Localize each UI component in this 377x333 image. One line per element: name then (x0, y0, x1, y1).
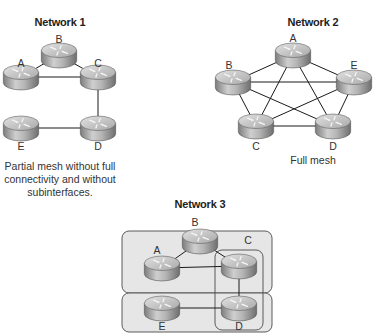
router-icon-network-1-d (80, 116, 115, 141)
node-label: C (244, 234, 252, 246)
network-1-title: Network 1 (35, 16, 86, 28)
node-label: B (191, 216, 198, 228)
caption-line: connectivity and without (4, 173, 115, 186)
node-label: B (55, 33, 62, 45)
router-icon-network-2-d (315, 114, 350, 139)
node-label: B (225, 59, 232, 71)
router-icon-network-3-c (221, 254, 256, 279)
router-icon-network-3-a (144, 256, 179, 281)
router-icon-network-3-e (144, 296, 179, 321)
network-1-caption: Partial mesh without fullconnectivity an… (4, 160, 115, 199)
network-2-caption: Full mesh (290, 154, 336, 167)
node-label: A (153, 244, 160, 256)
caption-line: subinterfaces. (4, 186, 115, 199)
router-icon-network-2-e (336, 70, 371, 95)
router-icon-network-3-d (221, 296, 256, 321)
node-label: A (17, 57, 24, 69)
network-3-title: Network 3 (175, 198, 226, 210)
node-label: C (94, 57, 102, 69)
router-icon-network-1-b (41, 43, 76, 68)
caption-line: Full mesh (290, 154, 336, 167)
node-label: E (350, 59, 357, 71)
node-label: D (329, 140, 337, 152)
node-label: A (289, 32, 296, 44)
router-icon-network-2-c (238, 114, 273, 139)
node-label: E (158, 320, 165, 332)
caption-line: Partial mesh without full (4, 160, 115, 173)
node-label: E (17, 140, 24, 152)
router-icon-network-2-b (215, 70, 250, 95)
router-icon-network-3-b (182, 229, 217, 254)
node-label: D (94, 140, 102, 152)
router-icon-network-2-a (275, 43, 310, 68)
node-label: C (252, 140, 260, 152)
node-label: D (235, 320, 243, 332)
network-2-title: Network 2 (288, 16, 339, 28)
router-icon-network-1-e (3, 116, 38, 141)
